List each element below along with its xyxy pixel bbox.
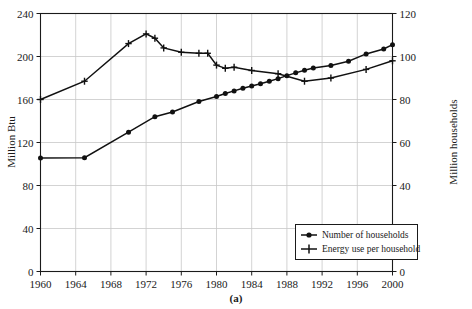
left-tick-label: 200 <box>17 51 34 63</box>
x-tick-label: 1980 <box>206 278 229 290</box>
data-point-marker <box>381 46 386 51</box>
legend-label-0: Number of households <box>322 230 409 240</box>
x-tick-label: 2000 <box>382 278 405 290</box>
right-axis-title: Million households <box>447 99 459 184</box>
right-tick-label: 120 <box>400 8 417 20</box>
right-tick-label: 60 <box>400 137 412 149</box>
x-axis-tick-labels: 1960196419681972197619801984198819921996… <box>30 278 405 290</box>
right-tick-label: 100 <box>400 51 417 63</box>
left-tick-label: 40 <box>23 223 35 235</box>
data-point-marker <box>302 68 307 73</box>
data-point-marker <box>267 79 272 84</box>
data-point-marker <box>240 86 245 91</box>
chart-container: 1960196419681972197619801984198819921996… <box>0 0 472 309</box>
data-point-marker <box>223 91 228 96</box>
data-point-marker <box>390 42 395 47</box>
x-tick-label: 1992 <box>311 278 333 290</box>
data-point-marker <box>214 94 219 99</box>
data-point-marker <box>152 114 157 119</box>
left-tick-label: 160 <box>17 94 34 106</box>
data-point-marker <box>232 88 237 93</box>
right-tick-label: 80 <box>400 94 412 106</box>
left-tick-label: 80 <box>23 180 35 192</box>
data-point-marker <box>258 81 263 86</box>
x-tick-label: 1960 <box>30 278 53 290</box>
dual-axis-line-chart: 1960196419681972197619801984198819921996… <box>0 0 472 309</box>
x-tick-label: 1988 <box>276 278 299 290</box>
x-tick-label: 1976 <box>170 278 193 290</box>
right-tick-label: 0 <box>400 266 406 278</box>
data-point-marker <box>196 99 201 104</box>
x-tick-label: 1972 <box>135 278 157 290</box>
x-tick-label: 1964 <box>65 278 88 290</box>
data-point-marker <box>249 83 254 88</box>
left-tick-label: 0 <box>28 266 34 278</box>
data-point-marker <box>364 51 369 56</box>
right-tick-label: 40 <box>400 180 412 192</box>
left-axis-title: Million Btu <box>5 116 17 168</box>
data-point-marker <box>293 70 298 75</box>
x-tick-label: 1996 <box>346 278 369 290</box>
chart-background <box>0 0 472 309</box>
figure-caption: (a) <box>230 292 243 305</box>
x-tick-label: 1984 <box>241 278 264 290</box>
data-point-marker <box>126 130 131 135</box>
chart-legend[interactable]: Number of households Energy use per hous… <box>296 225 421 260</box>
data-point-marker <box>346 59 351 64</box>
data-point-marker <box>328 63 333 68</box>
data-point-marker <box>82 155 87 160</box>
left-tick-label: 120 <box>17 137 34 149</box>
filled-circle-icon <box>306 232 311 237</box>
x-tick-label: 1968 <box>100 278 123 290</box>
data-point-marker <box>311 66 316 71</box>
data-point-marker <box>38 155 43 160</box>
legend-label-1: Energy use per household <box>322 244 420 254</box>
left-tick-label: 240 <box>17 8 34 20</box>
data-point-marker <box>170 109 175 114</box>
